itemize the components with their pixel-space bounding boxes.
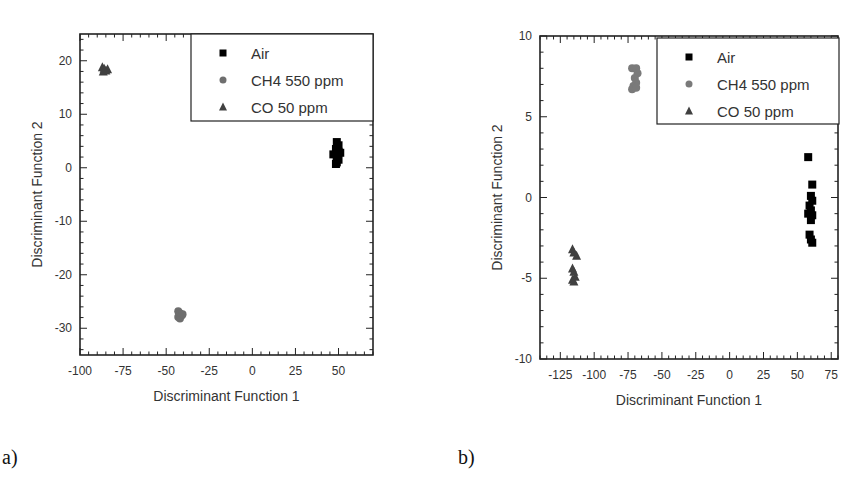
x-axis-label: Discriminant Function 1 — [153, 388, 299, 404]
series-square — [804, 153, 816, 247]
legend-label: Air — [251, 45, 269, 62]
x-tick-label: 75 — [825, 368, 839, 382]
scatter-plot-a: -100-75-50-2502550-30-20-1001020Discrimi… — [0, 0, 431, 420]
y-tick-label: -10 — [515, 352, 533, 366]
x-tick-label: -125 — [548, 368, 572, 382]
y-tick-label: -20 — [55, 268, 73, 282]
legend-label: CH4 550 ppm — [717, 76, 810, 93]
y-tick-label: -5 — [521, 271, 532, 285]
series-triangle — [568, 244, 581, 285]
y-tick-label: 5 — [525, 110, 532, 124]
y-tick-label: 10 — [519, 29, 533, 43]
y-axis-label: Discriminant Function 2 — [29, 121, 45, 267]
legend: AirCH4 550 ppmCO 50 ppm — [191, 34, 373, 121]
x-tick-label: -100 — [68, 364, 92, 378]
caption-a: a) — [2, 446, 18, 469]
caption-b: b) — [458, 446, 475, 469]
x-tick-label: -75 — [619, 368, 637, 382]
y-axis-label: Discriminant Function 2 — [489, 124, 505, 270]
x-tick-label: -75 — [114, 364, 132, 378]
legend-label: CH4 550 ppm — [251, 72, 344, 89]
legend: AirCH4 550 ppmCO 50 ppm — [657, 38, 839, 124]
y-tick-label: 10 — [59, 107, 73, 121]
x-tick-label: -50 — [158, 364, 176, 378]
x-tick-label: 0 — [726, 368, 733, 382]
chart-a: -100-75-50-2502550-30-20-1001020Discrimi… — [0, 0, 431, 420]
x-tick-label: -25 — [687, 368, 705, 382]
x-tick-label: 25 — [757, 368, 771, 382]
y-tick-label: 0 — [65, 161, 72, 175]
series-circle — [174, 307, 186, 322]
x-tick-label: -25 — [201, 364, 219, 378]
chart-b: -125-100-75-50-250255075-10-50510Discrim… — [431, 0, 862, 420]
scatter-plot-b: -125-100-75-50-250255075-10-50510Discrim… — [431, 0, 862, 420]
series-triangle — [98, 62, 112, 75]
legend-label: CO 50 ppm — [251, 99, 328, 116]
x-tick-label: 50 — [791, 368, 805, 382]
x-tick-label: 0 — [249, 364, 256, 378]
y-tick-label: -30 — [55, 321, 73, 335]
x-axis-label: Discriminant Function 1 — [616, 392, 762, 408]
x-tick-label: 25 — [289, 364, 303, 378]
y-tick-label: -10 — [55, 214, 73, 228]
x-tick-label: -50 — [653, 368, 671, 382]
y-tick-label: 20 — [59, 54, 73, 68]
legend-label: Air — [717, 49, 735, 66]
x-tick-label: 50 — [332, 364, 346, 378]
series-circle — [628, 64, 641, 93]
legend-label: CO 50 ppm — [717, 103, 794, 120]
series-square — [329, 138, 344, 168]
y-tick-label: 0 — [525, 191, 532, 205]
x-tick-label: -100 — [582, 368, 606, 382]
